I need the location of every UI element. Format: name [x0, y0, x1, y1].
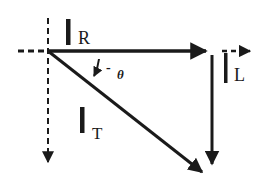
il-subscript: L: [234, 65, 245, 85]
angle-theta: θ: [117, 67, 124, 82]
angle-arc-arrow: [94, 59, 99, 76]
label-il: L: [224, 53, 245, 85]
ir-subscript: R: [78, 28, 90, 48]
angle-sign: -: [106, 60, 111, 75]
phasor-diagram: R L T - θ: [0, 0, 280, 181]
label-it: T: [80, 107, 103, 143]
label-angle: - θ: [106, 60, 124, 82]
label-ir: R: [66, 19, 90, 48]
it-subscript: T: [92, 124, 103, 143]
vector-it: [48, 51, 202, 172]
